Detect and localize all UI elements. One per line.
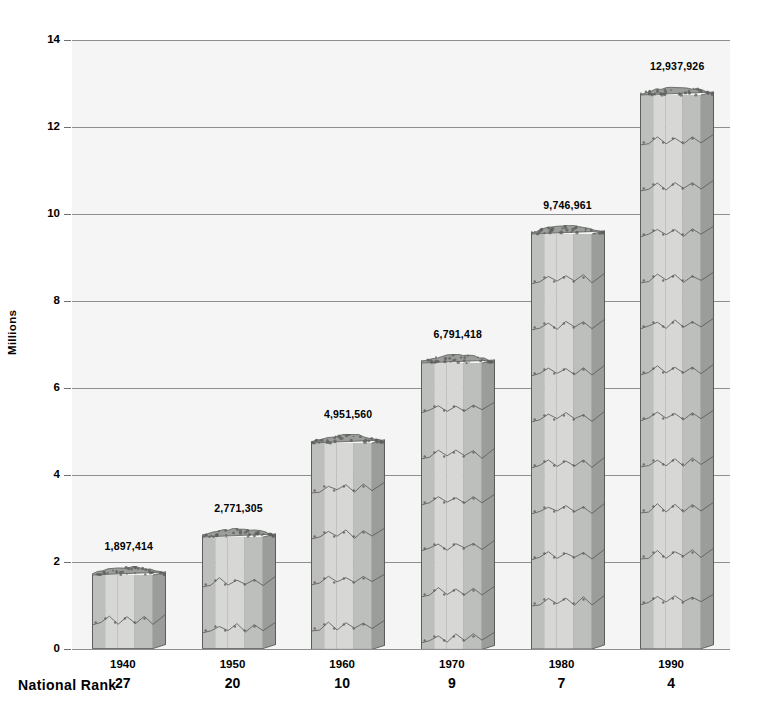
y-tick-label-2: 2 [14, 556, 60, 568]
y-tick-label-0: 0 [14, 643, 60, 655]
y-tick-mark-4 [64, 475, 71, 476]
bar-1950 [202, 528, 276, 649]
x-tick-label-1950: 1950 [178, 658, 288, 670]
y-tick-mark-6 [64, 388, 71, 389]
y-tick-label-6: 6 [14, 382, 60, 394]
gridline-0 [72, 649, 730, 650]
y-tick-mark-8 [64, 301, 71, 302]
bar-1980 [531, 225, 605, 649]
y-tick-mark-10 [64, 214, 71, 215]
bar-value-label-1940: 1,897,414 [49, 540, 209, 552]
national-rank-1970: 9 [397, 675, 507, 691]
y-tick-label-8: 8 [14, 295, 60, 307]
gridline-6 [72, 388, 730, 389]
bar-1970 [421, 354, 495, 649]
bar-value-label-1990: 12,937,926 [597, 60, 757, 72]
national-rank-1950: 20 [178, 675, 288, 691]
gridline-8 [72, 301, 730, 302]
bar-value-label-1980: 9,746,961 [488, 199, 648, 211]
gridline-2 [72, 562, 730, 563]
plot-area [72, 40, 730, 649]
x-tick-label-1940: 1940 [68, 658, 178, 670]
gridline-14 [72, 40, 730, 41]
y-axis-title: Millions [6, 310, 18, 355]
gridline-4 [72, 475, 730, 476]
y-tick-mark-14 [64, 40, 71, 41]
y-tick-mark-2 [64, 562, 71, 563]
y-tick-mark-12 [64, 127, 71, 128]
x-tick-label-1960: 1960 [287, 658, 397, 670]
y-tick-label-12: 12 [14, 121, 60, 133]
y-tick-label-4: 4 [14, 469, 60, 481]
gridline-12 [72, 127, 730, 128]
population-bar-chart: Millions 02468101214 1,897,4142,771,3054… [0, 0, 758, 725]
bar-value-label-1960: 4,951,560 [268, 408, 428, 420]
y-tick-label-14: 14 [14, 34, 60, 46]
national-rank-1990: 4 [616, 675, 726, 691]
y-tick-mark-0 [64, 649, 71, 650]
bar-value-label-1950: 2,771,305 [159, 502, 319, 514]
national-rank-1980: 7 [507, 675, 617, 691]
national-rank-1940: 27 [68, 675, 178, 691]
gridline-10 [72, 214, 730, 215]
bar-1940 [92, 566, 166, 649]
bar-value-label-1970: 6,791,418 [378, 328, 538, 340]
x-tick-label-1990: 1990 [616, 658, 726, 670]
national-rank-1960: 10 [287, 675, 397, 691]
y-tick-label-10: 10 [14, 208, 60, 220]
x-tick-label-1980: 1980 [507, 658, 617, 670]
x-tick-label-1970: 1970 [397, 658, 507, 670]
bar-1990 [640, 86, 714, 649]
bar-1960 [311, 434, 385, 649]
